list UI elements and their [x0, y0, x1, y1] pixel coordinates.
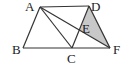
label-a: A	[25, 0, 35, 14]
label-f: F	[113, 42, 120, 57]
label-e: E	[82, 21, 90, 36]
label-b: B	[12, 42, 21, 57]
segment-ad	[40, 6, 89, 7]
label-c: C	[67, 51, 76, 66]
segment-ac	[40, 7, 72, 48]
label-d: D	[91, 0, 100, 14]
geometry-diagram: A B C D E F	[0, 0, 125, 68]
